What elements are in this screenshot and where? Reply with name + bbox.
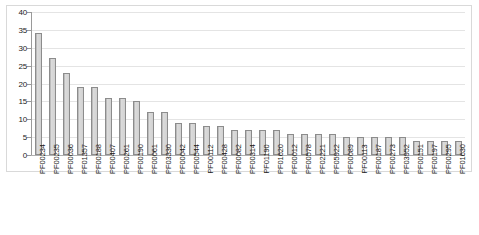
y-axis-tick-label: 0 — [23, 151, 27, 160]
bar-slot — [143, 12, 157, 155]
x-label-slot: PF00187 — [367, 157, 381, 231]
y-axis-tick-mark — [27, 12, 31, 13]
bar-series — [31, 12, 465, 155]
y-axis-tick-label: 5 — [23, 133, 27, 142]
bar-slot — [339, 12, 353, 155]
x-label-slot: PF01357 — [73, 157, 87, 231]
bar-slot — [31, 12, 45, 155]
y-axis-tick-mark — [27, 137, 31, 138]
bar-slot — [87, 12, 101, 155]
x-label-slot: PF00428 — [213, 157, 227, 231]
y-axis-tick-mark — [27, 155, 31, 156]
bar[interactable] — [49, 58, 56, 155]
x-label-slot: PF00235 — [45, 157, 59, 231]
y-axis-tick-label: 40 — [19, 8, 28, 17]
bar-slot — [437, 12, 451, 155]
x-label-slot: PF01620 — [269, 157, 283, 231]
bar-slot — [59, 12, 73, 155]
x-label-slot: PF00042 — [171, 157, 185, 231]
x-label-slot: PF00112 — [199, 157, 213, 231]
x-label-slot: PF00089 — [339, 157, 353, 231]
bar-slot — [241, 12, 255, 155]
x-label-slot: PF03952 — [395, 157, 409, 231]
bar-slot — [227, 12, 241, 155]
x-label-slot: PF03330 — [157, 157, 171, 231]
bar-slot — [283, 12, 297, 155]
y-axis-tick-label: 35 — [19, 25, 28, 34]
x-label-slot: PF00113 — [353, 157, 367, 231]
bar-slot — [101, 12, 115, 155]
bar[interactable] — [35, 33, 42, 155]
x-label-slot: PF00197 — [423, 157, 437, 231]
bar-slot — [311, 12, 325, 155]
bar-slot — [353, 12, 367, 155]
x-label-slot: PF01630 — [451, 157, 465, 231]
bar-slot — [129, 12, 143, 155]
y-axis-tick-label: 15 — [19, 97, 28, 106]
x-label-slot: PF00295 — [437, 157, 451, 231]
x-label-slot: PF00188 — [87, 157, 101, 231]
bar-slot — [45, 12, 59, 155]
x-axis-labels: PF00234PF00235PF00036PF01357PF00188PF004… — [31, 157, 465, 231]
y-axis-tick-mark — [27, 48, 31, 49]
y-axis-tick-label: 30 — [19, 43, 28, 52]
y-axis-tick-mark — [27, 84, 31, 85]
x-label-slot: PF00190 — [129, 157, 143, 231]
x-label-slot: PF00544 — [185, 157, 199, 231]
x-label-slot: PF00234 — [31, 157, 45, 231]
bar-slot — [115, 12, 129, 155]
y-axis-tick-mark — [27, 119, 31, 120]
bar[interactable] — [63, 73, 70, 155]
bar-slot — [199, 12, 213, 155]
x-label-slot: PF00061 — [143, 157, 157, 231]
x-label-slot: PF00082 — [227, 157, 241, 231]
bar-slot — [297, 12, 311, 155]
bar-slot — [381, 12, 395, 155]
bar-slot — [423, 12, 437, 155]
bar-chart: PF00234PF00235PF00036PF01357PF00188PF004… — [0, 0, 479, 235]
bar-slot — [213, 12, 227, 155]
x-label-slot: PF01190 — [255, 157, 269, 231]
x-label-slot: PF05922 — [325, 157, 339, 231]
x-label-slot: PF00407 — [101, 157, 115, 231]
bar-slot — [73, 12, 87, 155]
bar-slot — [269, 12, 283, 155]
x-axis-tick-label: PF01630 — [458, 144, 467, 174]
y-axis-tick-mark — [27, 101, 31, 102]
x-label-slot: PF00314 — [241, 157, 255, 231]
bar-slot — [185, 12, 199, 155]
y-axis-tick-label: 25 — [19, 61, 28, 70]
y-axis-tick-label: 10 — [19, 115, 28, 124]
bar-slot — [255, 12, 269, 155]
x-label-slot: PF00261 — [115, 157, 129, 231]
x-label-slot: PF00036 — [59, 157, 73, 231]
x-label-slot: PF00151 — [409, 157, 423, 231]
bar-slot — [409, 12, 423, 155]
x-label-slot: PF02221 — [311, 157, 325, 231]
bar-slot — [171, 12, 185, 155]
y-axis-tick-mark — [27, 66, 31, 67]
x-label-slot: PF00273 — [381, 157, 395, 231]
y-axis-tick-label: 20 — [19, 79, 28, 88]
bar-slot — [157, 12, 171, 155]
bar-slot — [451, 12, 465, 155]
y-axis-tick-mark — [27, 30, 31, 31]
x-label-slot: PF00012 — [283, 157, 297, 231]
bar-slot — [325, 12, 339, 155]
x-label-slot: PF00578 — [297, 157, 311, 231]
bar-slot — [367, 12, 381, 155]
bar-slot — [395, 12, 409, 155]
